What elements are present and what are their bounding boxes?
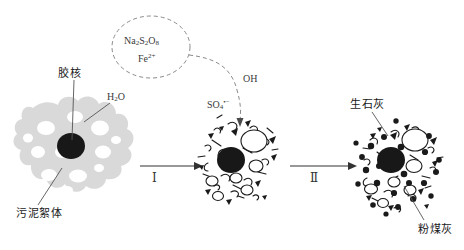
arrow-step-1-numeral: Ⅰ: [152, 172, 157, 184]
arrow-step-2-numeral: Ⅱ: [310, 172, 318, 184]
sludge-floc-label: 污泥絮体: [16, 208, 62, 219]
arrow-step-1-shape: [140, 162, 203, 170]
micelle-core-label: 胶核: [58, 68, 81, 79]
conditioned-micelle-core: [377, 147, 405, 173]
quicklime-label: 生石灰: [350, 99, 385, 110]
dashed-reagent-arrowhead: [237, 118, 244, 127]
sulfate-radical-label: SO4•−: [207, 99, 230, 111]
figure-canvas: Na2S2O8 Fe2+ 胶核 H2O 污泥絮体 SO4•− OH 生石灰 粉煤…: [0, 0, 464, 250]
arrow-step-2-shape: [290, 162, 357, 170]
reagent-formula-ferrous: Fe2+: [138, 53, 155, 64]
oxidized-micelle-core: [217, 147, 245, 173]
schematic-vector-layer: [0, 0, 464, 250]
fly-ash-label: 粉煤灰: [418, 224, 453, 235]
reagent-formula-persulfate: Na2S2O8: [124, 36, 159, 47]
quicklime-leader: [372, 112, 388, 136]
micelle-core-shape: [57, 133, 85, 159]
water-label: H2O: [107, 92, 125, 103]
reagent-bubble-outline: [112, 16, 190, 78]
hydroxyl-radical-label: OH: [243, 74, 257, 84]
